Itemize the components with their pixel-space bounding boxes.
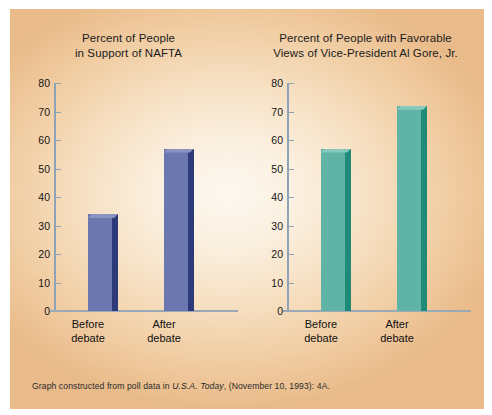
bar-top-face bbox=[397, 106, 427, 110]
bar-top-face bbox=[321, 149, 351, 153]
bar-side-face bbox=[345, 149, 351, 311]
y-tick-mark bbox=[56, 226, 61, 227]
bar-front-face bbox=[397, 106, 423, 311]
y-tick-label: 10 bbox=[253, 277, 283, 289]
y-tick-label: 20 bbox=[20, 248, 50, 260]
source-publication: U.S.A. Today bbox=[172, 381, 224, 391]
chart-title-nafta: Percent of People in Support of NAFTA bbox=[10, 31, 247, 61]
source-caption: Graph constructed from poll data in U.S.… bbox=[32, 381, 330, 391]
y-tick-label: 20 bbox=[253, 248, 283, 260]
y-tick-mark bbox=[56, 197, 61, 198]
y-tick-label: 60 bbox=[20, 134, 50, 146]
y-tick-label: 50 bbox=[20, 163, 50, 175]
plot-area-nafta: 01020304050607080 Before debateAfter deb… bbox=[54, 83, 234, 311]
y-tick-mark bbox=[56, 112, 61, 113]
chart-title-gore: Percent of People with Favorable Views o… bbox=[247, 31, 484, 61]
y-tick-label: 40 bbox=[253, 191, 283, 203]
bar-after-debate bbox=[397, 106, 427, 311]
bar-side-face bbox=[112, 214, 118, 311]
y-tick-mark bbox=[289, 140, 294, 141]
y-tick-mark bbox=[289, 254, 294, 255]
y-tick-label: 80 bbox=[20, 77, 50, 89]
bar-front-face bbox=[88, 214, 114, 311]
source-suffix: , (November 10, 1993): 4A. bbox=[224, 381, 330, 391]
bar-front-face bbox=[164, 149, 190, 311]
y-tick-mark bbox=[289, 112, 294, 113]
y-tick-mark bbox=[289, 197, 294, 198]
bar-after-debate bbox=[164, 149, 194, 311]
x-axis-baseline bbox=[50, 310, 238, 312]
y-tick-label: 10 bbox=[20, 277, 50, 289]
x-label-after-debate: After debate bbox=[122, 317, 206, 345]
y-tick-label: 40 bbox=[20, 191, 50, 203]
y-tick-label: 60 bbox=[253, 134, 283, 146]
y-tick-label: 80 bbox=[253, 77, 283, 89]
bar-before-debate bbox=[88, 214, 118, 311]
bar-side-face bbox=[188, 149, 194, 311]
y-tick-mark bbox=[289, 226, 294, 227]
chart-gore-favorable: Percent of People with Favorable Views o… bbox=[247, 9, 484, 409]
y-tick-mark bbox=[56, 169, 61, 170]
y-tick-mark bbox=[56, 283, 61, 284]
y-tick-label: 70 bbox=[20, 106, 50, 118]
y-tick-mark bbox=[56, 140, 61, 141]
chart-nafta-support: Percent of People in Support of NAFTA 01… bbox=[10, 9, 247, 409]
bar-front-face bbox=[321, 149, 347, 311]
y-tick-label: 70 bbox=[253, 106, 283, 118]
x-label-before-debate: Before debate bbox=[279, 317, 363, 345]
y-tick-mark bbox=[289, 283, 294, 284]
bar-side-face bbox=[421, 106, 427, 311]
y-tick-label: 50 bbox=[253, 163, 283, 175]
x-label-after-debate: After debate bbox=[355, 317, 439, 345]
y-tick-label: 0 bbox=[253, 305, 283, 317]
plot-area-gore: 01020304050607080 Before debateAfter deb… bbox=[287, 83, 467, 311]
bar-before-debate bbox=[321, 149, 351, 311]
bar-top-face bbox=[88, 214, 118, 218]
y-tick-label: 0 bbox=[20, 305, 50, 317]
figure-panel: Percent of People in Support of NAFTA 01… bbox=[10, 9, 484, 409]
y-tick-mark bbox=[289, 169, 294, 170]
x-label-before-debate: Before debate bbox=[46, 317, 130, 345]
y-tick-label: 30 bbox=[253, 220, 283, 232]
y-tick-label: 30 bbox=[20, 220, 50, 232]
y-tick-mark bbox=[289, 83, 294, 84]
y-tick-mark bbox=[56, 83, 61, 84]
source-prefix: Graph constructed from poll data in bbox=[32, 381, 172, 391]
y-tick-mark bbox=[56, 254, 61, 255]
bar-top-face bbox=[164, 149, 194, 153]
x-axis-baseline bbox=[283, 310, 471, 312]
